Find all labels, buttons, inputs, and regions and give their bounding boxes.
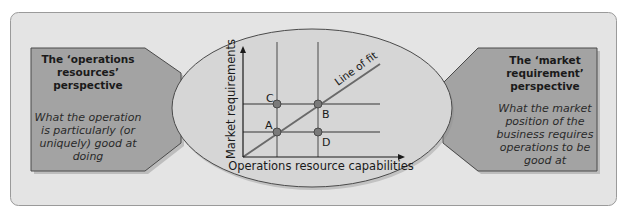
point-a bbox=[273, 128, 281, 136]
right-title-line: perspective bbox=[510, 80, 580, 92]
right-desc-line: business requires bbox=[497, 128, 594, 141]
left-desc-line: uniquely) good at bbox=[39, 137, 137, 150]
left-title-line: perspective bbox=[53, 79, 123, 91]
right-title-line: The ‘market bbox=[509, 54, 580, 66]
operations-strategy-diagram: C B A D Line of fit Operations resource … bbox=[0, 0, 628, 214]
left-title-line: The ‘operations bbox=[41, 53, 134, 65]
y-axis-label: Market requirements bbox=[224, 39, 238, 159]
point-b bbox=[314, 100, 322, 108]
x-axis-label: Operations resource capabilities bbox=[228, 159, 414, 173]
left-desc-line: is particularly (or bbox=[41, 124, 136, 137]
point-label-a: A bbox=[265, 119, 273, 132]
right-desc-line: What the market bbox=[498, 102, 592, 115]
point-c bbox=[273, 100, 281, 108]
right-desc-line: operations to be bbox=[500, 141, 591, 154]
point-d bbox=[314, 128, 322, 136]
right-desc-line: position of the bbox=[504, 115, 584, 128]
left-desc-line: doing bbox=[73, 150, 104, 163]
point-label-c: C bbox=[266, 92, 274, 105]
left-title-line: resources’ bbox=[57, 66, 119, 78]
left-desc-line: What the operation bbox=[35, 111, 142, 124]
right-box-text: The ‘market requirement’ perspective Wha… bbox=[497, 54, 594, 167]
point-label-b: B bbox=[322, 108, 330, 121]
point-label-d: D bbox=[322, 136, 330, 149]
right-desc-line: good at bbox=[524, 154, 567, 167]
right-title-line: requirement’ bbox=[506, 67, 584, 79]
